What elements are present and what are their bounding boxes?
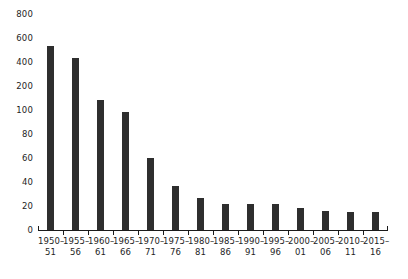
bar [72, 58, 80, 230]
category-label-line1: 1950– [38, 236, 63, 247]
x-axis-category-label: 1990–91 [238, 236, 263, 258]
x-axis-category-label: 2005–06 [313, 236, 338, 258]
x-axis-category-label: 1950–51 [38, 236, 63, 258]
category-label-line2: 86 [213, 247, 238, 258]
x-axis-tick [138, 231, 139, 235]
bar-chart: 020406080100200400600800 1950–511955–561… [0, 0, 408, 279]
bar [247, 204, 255, 230]
bar [172, 186, 180, 230]
x-axis-tick [163, 231, 164, 235]
x-axis-tick [338, 231, 339, 235]
x-axis-tick [113, 231, 114, 235]
x-axis-category-label: 1955–56 [63, 236, 88, 258]
category-label-line2: 61 [88, 247, 113, 258]
x-axis-category-label: 2000–01 [288, 236, 313, 258]
y-axis-tick-label: 800 [0, 10, 33, 19]
x-axis-end-tick [387, 226, 388, 231]
category-label-line2: 96 [263, 247, 288, 258]
category-label-line1: 2015– [363, 236, 388, 247]
x-axis-tick [63, 231, 64, 235]
y-axis-tick-label: 80 [0, 130, 33, 139]
x-axis-tick [188, 231, 189, 235]
category-label-line2: 91 [238, 247, 263, 258]
x-axis-tick [263, 231, 264, 235]
x-axis-tick [238, 231, 239, 235]
x-axis-tick [288, 231, 289, 235]
x-axis-category-label: 2010–11 [338, 236, 363, 258]
category-label-line2: 16 [363, 247, 388, 258]
category-label-line2: 71 [138, 247, 163, 258]
y-axis-tick-label: 100 [0, 106, 33, 115]
bar [97, 100, 105, 230]
category-label-line1: 1980– [188, 236, 213, 247]
x-axis-category-label: 2015–16 [363, 236, 388, 258]
bar [222, 204, 230, 230]
x-axis-category-label: 1980–81 [188, 236, 213, 258]
x-axis-category-label: 1960–61 [88, 236, 113, 258]
bar [272, 204, 280, 230]
category-label-line2: 51 [38, 247, 63, 258]
category-label-line1: 2010– [338, 236, 363, 247]
x-axis-tick [213, 231, 214, 235]
bar [122, 112, 130, 230]
y-axis-tick-label: 200 [0, 82, 33, 91]
y-axis-tick-label: 20 [0, 202, 33, 211]
x-axis-tick [363, 231, 364, 235]
y-axis-tick-label: 0 [0, 226, 33, 235]
x-axis-tick [88, 231, 89, 235]
y-axis-tick-label: 60 [0, 154, 33, 163]
y-axis-tick-label: 40 [0, 178, 33, 187]
category-label-line1: 2005– [313, 236, 338, 247]
category-label-line1: 1985– [213, 236, 238, 247]
y-axis: 020406080100200400600800 [0, 0, 33, 279]
y-axis-tick-label: 400 [0, 58, 33, 67]
category-label-line2: 56 [63, 247, 88, 258]
x-axis-category-label: 1985–86 [213, 236, 238, 258]
x-axis-category-label: 1995–96 [263, 236, 288, 258]
category-label-line2: 81 [188, 247, 213, 258]
category-label-line1: 1965– [113, 236, 138, 247]
plot-area [38, 8, 388, 231]
category-label-line2: 76 [163, 247, 188, 258]
category-label-line1: 1990– [238, 236, 263, 247]
bar [322, 211, 330, 230]
bar [47, 46, 55, 230]
category-label-line2: 11 [338, 247, 363, 258]
category-label-line1: 1995– [263, 236, 288, 247]
bar [372, 212, 380, 230]
bar [197, 198, 205, 230]
x-axis-category-label: 1970–71 [138, 236, 163, 258]
y-axis-tick-label: 600 [0, 34, 33, 43]
category-label-line2: 01 [288, 247, 313, 258]
bar [147, 158, 155, 230]
x-axis-tick [313, 231, 314, 235]
bar [347, 212, 355, 230]
x-axis-category-label: 1965–66 [113, 236, 138, 258]
category-label-line1: 1960– [88, 236, 113, 247]
category-label-line1: 1970– [138, 236, 163, 247]
category-label-line1: 1955– [63, 236, 88, 247]
category-label-line2: 66 [113, 247, 138, 258]
bar [297, 208, 305, 230]
category-label-line2: 06 [313, 247, 338, 258]
category-label-line1: 2000– [288, 236, 313, 247]
x-axis-category-label: 1975–76 [163, 236, 188, 258]
category-label-line1: 1975– [163, 236, 188, 247]
x-axis-start-tick [38, 226, 39, 231]
